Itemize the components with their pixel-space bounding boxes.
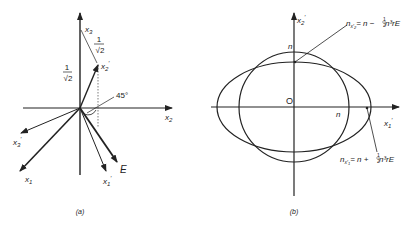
x3-label: x3 bbox=[84, 25, 93, 35]
x1-prime-label: x1′ bbox=[102, 175, 112, 187]
fraction-top: 1 √2 bbox=[94, 35, 105, 55]
x2-label: x2 bbox=[164, 113, 173, 123]
annotation-top: nx′2= n − 1 2 n³rE bbox=[346, 16, 401, 30]
field-e-label: E bbox=[120, 164, 127, 175]
svg-text:nx′2= n −: nx′2= n − bbox=[346, 19, 375, 30]
annotation-bottom: nx′1= n + 1 2 n³rE bbox=[340, 152, 395, 166]
leader-top bbox=[295, 25, 347, 62]
panel-a: x3 x2 x1 x3′ x2′ x1′ E 45° 1 √2 1 √2 (a) bbox=[12, 13, 173, 216]
origin-label: O bbox=[286, 96, 293, 106]
figure: x3 x2 x1 x3′ x2′ x1′ E 45° 1 √2 1 √2 (a) bbox=[0, 0, 410, 231]
x3-prime-axis bbox=[21, 108, 80, 133]
x1-axis bbox=[20, 108, 80, 171]
x1-label: x1 bbox=[24, 175, 32, 185]
leader-bottom bbox=[367, 108, 377, 152]
fraction-left: 1 √2 bbox=[63, 63, 73, 83]
point-top bbox=[294, 61, 297, 64]
svg-text:√2: √2 bbox=[96, 46, 105, 55]
angle-arc bbox=[84, 110, 96, 115]
point-right bbox=[366, 107, 369, 110]
n-right-label: n bbox=[336, 110, 341, 119]
svg-text:nx′1= n +: nx′1= n + bbox=[340, 155, 369, 166]
caption-a: (a) bbox=[76, 208, 85, 216]
panel-b: O n n x2′ x1′ nx′2= n − 1 2 n³rE nx′1= n… bbox=[211, 13, 401, 216]
n-top-label: n bbox=[288, 42, 293, 51]
svg-text:n³rE: n³rE bbox=[385, 19, 401, 28]
x1-prime-label-b: x1′ bbox=[383, 117, 393, 129]
x2-prime-axis bbox=[80, 65, 98, 108]
x2-prime-label: x2′ bbox=[100, 60, 110, 72]
angle-leader bbox=[87, 97, 114, 113]
x2-prime-label-b: x2′ bbox=[296, 14, 306, 26]
caption-b: (b) bbox=[290, 208, 299, 216]
svg-text:1: 1 bbox=[97, 35, 102, 44]
x3-prime-label: x3′ bbox=[12, 136, 22, 148]
svg-text:n³rE: n³rE bbox=[379, 155, 395, 164]
svg-text:√2: √2 bbox=[64, 74, 73, 83]
angle-label: 45° bbox=[116, 91, 128, 100]
svg-text:1: 1 bbox=[65, 63, 70, 72]
